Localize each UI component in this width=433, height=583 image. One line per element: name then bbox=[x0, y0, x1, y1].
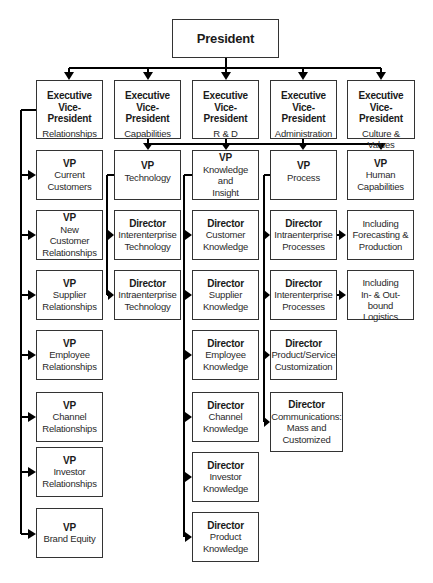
vp-title: VP bbox=[141, 160, 154, 172]
director-title: Director bbox=[285, 218, 322, 230]
director-area: Channel bbox=[209, 411, 243, 423]
vp-title: VP bbox=[297, 160, 310, 172]
vp-area: Knowledge and bbox=[196, 164, 255, 187]
vp-area: Technology bbox=[124, 172, 170, 184]
director-title: Director bbox=[288, 399, 325, 411]
director-channel-knowledge-box: Director Channel Knowledge bbox=[192, 392, 259, 442]
director-area: Customized bbox=[282, 434, 330, 446]
vp-area: Relationships bbox=[42, 423, 96, 435]
director-title: Director bbox=[207, 278, 244, 290]
note-text: In- & Out-bound bbox=[351, 289, 410, 312]
evp-area: Capabilities bbox=[124, 128, 171, 140]
president-box: President bbox=[172, 19, 279, 58]
evp-title: Vice- President bbox=[196, 102, 255, 125]
director-area: Communications: bbox=[271, 411, 341, 423]
director-title: Director bbox=[207, 460, 244, 472]
evp-title: Executive bbox=[203, 90, 248, 102]
director-area: Product/Service bbox=[271, 349, 335, 361]
director-area: Knowledge bbox=[203, 543, 248, 555]
evp-title: Vice- President bbox=[118, 102, 177, 125]
note-text: Logistics bbox=[363, 312, 398, 321]
director-area: Intraenterprise bbox=[274, 229, 332, 241]
director-area: Knowledge bbox=[203, 301, 248, 313]
director-area: Customization bbox=[275, 361, 333, 373]
vp-area: Customers bbox=[47, 181, 91, 193]
director-area: Product bbox=[210, 531, 241, 543]
vp-technology-box: VP Technology bbox=[114, 150, 181, 200]
vp-area: Capabilities bbox=[357, 181, 404, 193]
vp-title: VP bbox=[63, 400, 76, 412]
vp-title: VP bbox=[219, 152, 232, 164]
vp-title: VP bbox=[63, 338, 76, 350]
evp-title: Vice- President bbox=[351, 102, 411, 125]
evp-culture-values-box: Executive Vice- President Culture & Valu… bbox=[347, 80, 415, 139]
vp-area: Relationships bbox=[42, 361, 96, 373]
evp-area: Administration bbox=[275, 128, 332, 140]
evp-area: Relationships bbox=[42, 128, 96, 140]
vp-employee-relationships-box: VP Employee Relationships bbox=[36, 330, 103, 380]
director-investor-knowledge-box: Director Investor Knowledge bbox=[192, 452, 259, 502]
vp-area: Current bbox=[54, 169, 84, 181]
vp-title: VP bbox=[63, 278, 76, 290]
director-area: Knowledge bbox=[203, 361, 248, 373]
vp-title: VP bbox=[63, 522, 76, 534]
vp-area: New Customer bbox=[40, 224, 99, 247]
note-logistics-box: Including In- & Out-bound Logistics bbox=[347, 270, 414, 320]
evp-title: Executive bbox=[47, 90, 92, 102]
vp-area: Human bbox=[366, 169, 396, 181]
vp-title: VP bbox=[374, 158, 387, 170]
evp-rd-box: Executive Vice- President R & D bbox=[192, 80, 259, 139]
vp-area: Relationships bbox=[42, 247, 96, 259]
director-title: Director bbox=[207, 400, 244, 412]
vp-area: Supplier bbox=[53, 289, 86, 301]
director-intraenterprise-technology-box: Director Intraenterprise Technology bbox=[114, 270, 181, 320]
vp-new-customer-relationships-box: VP New Customer Relationships bbox=[36, 210, 103, 260]
vp-channel-relationships-box: VP Channel Relationships bbox=[36, 392, 103, 442]
note-text: Production bbox=[359, 241, 402, 253]
director-title: Director bbox=[207, 520, 244, 532]
director-area: Supplier bbox=[209, 289, 242, 301]
evp-area: Culture & bbox=[362, 128, 400, 140]
director-area: Knowledge bbox=[203, 241, 248, 253]
director-area: Knowledge bbox=[203, 483, 248, 495]
vp-brand-equity-box: VP Brand Equity bbox=[36, 508, 103, 558]
vp-area: Relationships bbox=[42, 478, 96, 490]
vp-area: Channel bbox=[53, 411, 87, 423]
director-title: Director bbox=[129, 218, 166, 230]
director-area: Employee bbox=[205, 349, 246, 361]
president-label: President bbox=[197, 33, 254, 45]
vp-area: Investor bbox=[53, 466, 85, 478]
note-text: Including bbox=[362, 218, 398, 230]
director-area: Processes bbox=[282, 241, 325, 253]
director-area: Technology bbox=[124, 241, 170, 253]
vp-investor-relationships-box: VP Investor Relationships bbox=[36, 447, 103, 497]
director-area: Interenterprise bbox=[274, 289, 332, 301]
vp-supplier-relationships-box: VP Supplier Relationships bbox=[36, 270, 103, 320]
director-area: Mass and bbox=[287, 422, 327, 434]
vp-current-customers-box: VP Current Customers bbox=[36, 150, 103, 200]
vp-knowledge-insight-box: VP Knowledge and Insight bbox=[192, 150, 259, 200]
director-communications-box: Director Communications: Mass and Custom… bbox=[270, 392, 343, 452]
vp-area: Insight bbox=[212, 187, 239, 199]
vp-area: Process bbox=[287, 172, 320, 184]
vp-area: Relationships bbox=[42, 301, 96, 313]
director-area: Customer bbox=[206, 229, 246, 241]
director-area: Knowledge bbox=[203, 423, 248, 435]
note-forecasting-production-box: Including Forecasting & Production bbox=[347, 210, 414, 260]
director-customer-knowledge-box: Director Customer Knowledge bbox=[192, 210, 259, 260]
director-area: Investor bbox=[209, 471, 241, 483]
evp-area: R & D bbox=[213, 128, 237, 140]
director-product-knowledge-box: Director Product Knowledge bbox=[192, 512, 259, 562]
director-area: Processes bbox=[282, 301, 325, 313]
evp-title: Vice- President bbox=[40, 102, 99, 125]
director-intraenterprise-processes-box: Director Intraenterprise Processes bbox=[270, 210, 337, 260]
director-area: Technology bbox=[124, 301, 170, 313]
vp-title: VP bbox=[63, 158, 76, 170]
director-supplier-knowledge-box: Director Supplier Knowledge bbox=[192, 270, 259, 320]
director-title: Director bbox=[285, 338, 322, 350]
vp-area: Employee bbox=[49, 349, 90, 361]
director-area: Intraenterprise bbox=[118, 289, 176, 301]
note-text: Including bbox=[362, 277, 398, 289]
evp-area: Values bbox=[367, 139, 394, 151]
vp-process-box: VP Process bbox=[270, 150, 337, 200]
